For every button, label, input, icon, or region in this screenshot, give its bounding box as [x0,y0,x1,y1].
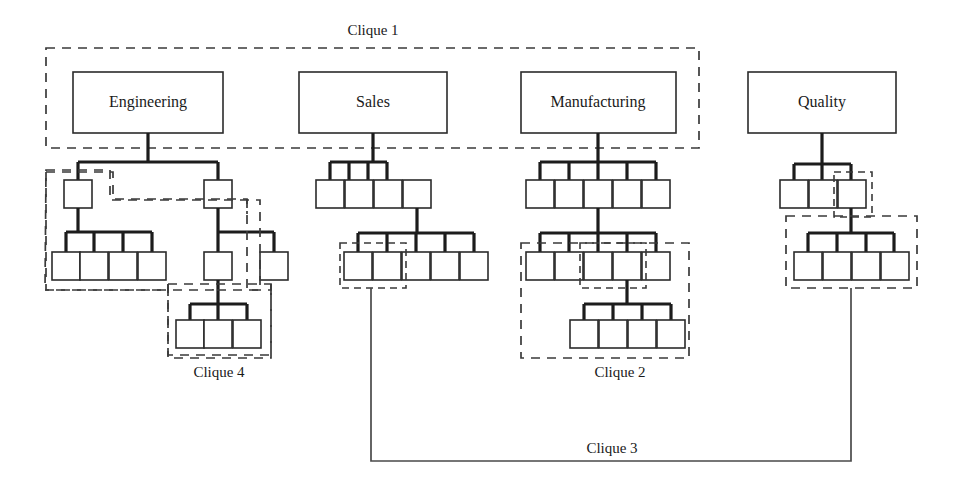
node-manufacturing-l2-1[interactable] [526,180,554,208]
node-engineering-r3-2[interactable] [260,252,288,280]
node-engineering-l2-2[interactable] [204,180,232,208]
engineering-subtree: Engineering [52,72,288,348]
manufacturing-subtree: Manufacturing [521,72,685,348]
node-engineering-l3-3[interactable] [109,252,137,280]
node-sales-l2-1[interactable] [316,180,344,208]
node-manufacturing-l2-5[interactable] [642,180,670,208]
department-label-quality: Quality [798,93,846,111]
node-manufacturing-l2-3[interactable] [584,180,612,208]
node-engineering-l4-2[interactable] [204,320,232,348]
node-manufacturing-l2-2[interactable] [555,180,583,208]
node-sales-l2-4[interactable] [403,180,431,208]
node-quality-l2-3[interactable] [838,180,866,208]
clique2-label: Clique 2 [594,364,645,380]
node-manufacturing-l4-2[interactable] [599,320,627,348]
node-sales-l3-1[interactable] [344,252,372,280]
node-manufacturing-l3-1[interactable] [526,252,554,280]
node-engineering-l3-2[interactable] [80,252,108,280]
node-quality-l2-1[interactable] [780,180,808,208]
node-manufacturing-l3-3[interactable] [584,252,612,280]
node-engineering-l2-1[interactable] [64,180,92,208]
node-engineering-l4-3[interactable] [233,320,261,348]
clique3-label: Clique 3 [586,440,637,456]
node-quality-l3-1[interactable] [794,252,822,280]
clique4-label: Clique 4 [193,364,245,380]
node-sales-l2-2[interactable] [345,180,373,208]
node-manufacturing-l3-4[interactable] [613,252,641,280]
diagram-canvas: Engineering [0,0,965,495]
node-manufacturing-l4-4[interactable] [657,320,685,348]
node-manufacturing-l2-4[interactable] [613,180,641,208]
node-engineering-l3-1[interactable] [52,252,80,280]
node-manufacturing-l4-1[interactable] [570,320,598,348]
node-engineering-r3-1[interactable] [204,252,232,280]
clique1-label: Clique 1 [347,22,398,38]
node-quality-l2-2[interactable] [809,180,837,208]
department-label-engineering: Engineering [109,93,187,111]
node-sales-l3-4[interactable] [431,252,459,280]
node-sales-l3-5[interactable] [460,252,488,280]
node-sales-l3-2[interactable] [373,252,401,280]
node-manufacturing-l3-2[interactable] [555,252,583,280]
node-manufacturing-l4-3[interactable] [628,320,656,348]
node-engineering-l4-1[interactable] [176,320,204,348]
node-quality-l3-3[interactable] [852,252,880,280]
node-sales-l2-3[interactable] [374,180,402,208]
sales-subtree: Sales [299,72,488,280]
department-label-manufacturing: Manufacturing [550,93,645,111]
org-chart-diagram: Engineering [0,0,965,495]
node-quality-l3-4[interactable] [881,252,909,280]
node-engineering-l3-4[interactable] [138,252,166,280]
department-label-sales: Sales [356,93,390,110]
node-quality-l3-2[interactable] [823,252,851,280]
quality-subtree: Quality [748,72,909,280]
